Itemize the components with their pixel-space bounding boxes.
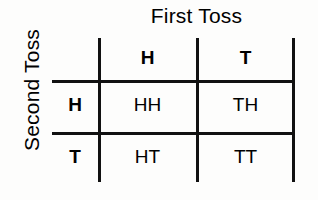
coin-toss-outcome-figure: First Toss Second Toss H T H T HH TH HT … [0,0,318,200]
outcome-cell-ht: HT [99,147,196,167]
row-header-h: H [52,95,98,117]
column-header-t: T [197,48,294,70]
grid-horizontal-line-middle [52,132,295,135]
outcome-cell-hh: HH [99,95,196,115]
column-header-h: H [99,48,196,70]
grid-horizontal-line-header [52,80,295,83]
row-axis-title: Second Toss [20,20,44,160]
outcome-cell-tt: TT [197,147,294,167]
row-header-t: T [52,147,98,169]
outcome-cell-th: TH [197,95,294,115]
column-axis-title: First Toss [99,3,294,29]
